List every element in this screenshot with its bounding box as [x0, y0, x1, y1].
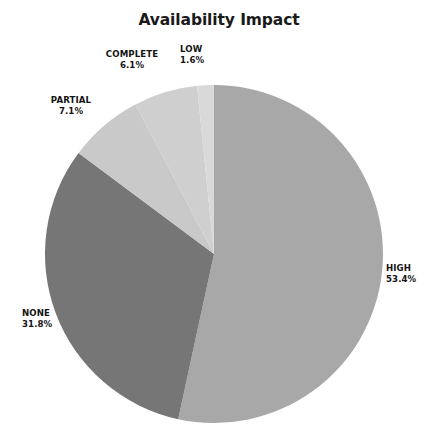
pie-canvas: [0, 0, 438, 446]
pie-label-low-name: LOW: [180, 44, 230, 55]
pie-label-high-value: 53.4%: [386, 274, 436, 285]
pie-label-low-value: 1.6%: [180, 55, 230, 66]
pie-chart-figure: Availability Impact COMPLETE 6.1% LOW 1.…: [0, 0, 438, 446]
pie-slice-group: [45, 85, 383, 423]
pie-label-none-value: 31.8%: [22, 319, 78, 330]
pie-label-high: HIGH 53.4%: [386, 263, 436, 285]
pie-label-complete-name: COMPLETE: [96, 49, 168, 60]
pie-label-partial-name: PARTIAL: [38, 95, 104, 106]
pie-label-partial: PARTIAL 7.1%: [38, 95, 104, 117]
pie-label-complete: COMPLETE 6.1%: [96, 49, 168, 71]
pie-label-low: LOW 1.6%: [180, 44, 230, 66]
pie-label-complete-value: 6.1%: [96, 60, 168, 71]
pie-label-none: NONE 31.8%: [22, 308, 78, 330]
pie-label-high-name: HIGH: [386, 263, 436, 274]
pie-label-partial-value: 7.1%: [38, 106, 104, 117]
pie-label-none-name: NONE: [22, 308, 78, 319]
